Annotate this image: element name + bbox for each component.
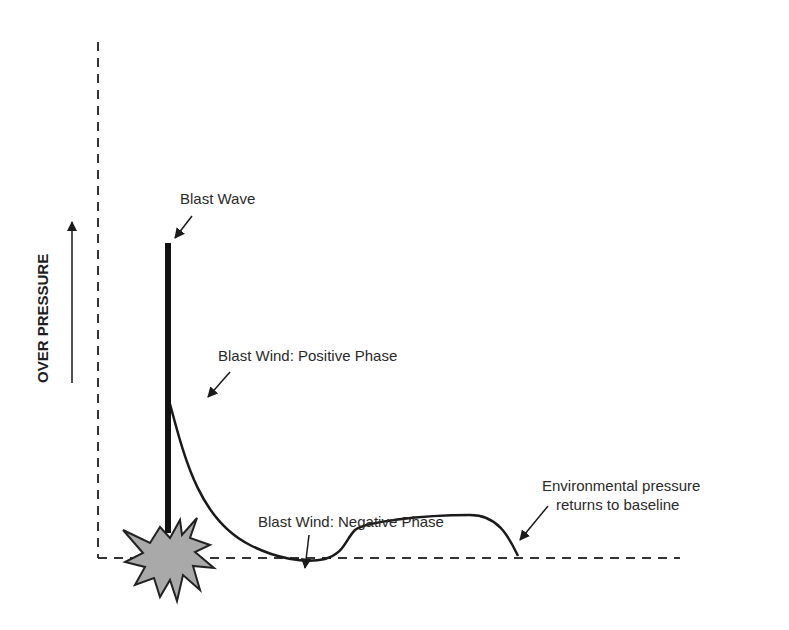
diagram-canvas	[0, 0, 789, 630]
blast-wave-arrow-icon	[175, 216, 192, 238]
baseline-label-line1: Environmental pressure	[542, 477, 700, 495]
negative-phase-arrow-icon	[305, 535, 309, 568]
pressure-curve	[170, 404, 518, 561]
positive-phase-arrow-icon	[208, 372, 230, 397]
positive-phase-label: Blast Wind: Positive Phase	[218, 347, 397, 365]
y-axis-label: OVER PRESSURE	[34, 254, 51, 383]
blast-wave-diagram: OVER PRESSURE Blast Wave Blast Wind: Pos…	[0, 0, 789, 630]
blast-wave-label: Blast Wave	[180, 190, 255, 208]
negative-phase-label: Blast Wind: Negative Phase	[258, 513, 444, 531]
baseline-label-line2: returns to baseline	[556, 496, 679, 514]
baseline-return-arrow-icon	[520, 506, 548, 540]
blast-wave-spike	[165, 243, 171, 533]
